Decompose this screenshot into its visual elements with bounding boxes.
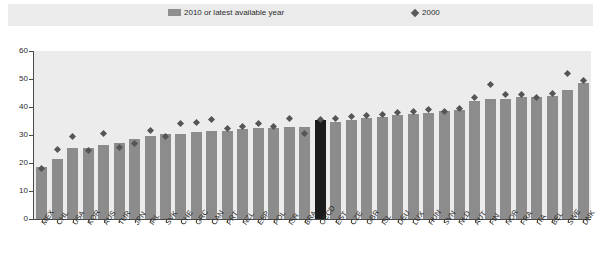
x-axis-label-nzl: NZL	[241, 210, 256, 226]
y-axis-tick-mark	[29, 163, 34, 164]
x-axis-tick-mark	[88, 220, 89, 223]
x-axis-tick-mark	[320, 220, 321, 223]
x-axis-tick-mark	[583, 220, 584, 223]
x-axis-tick-mark	[42, 220, 43, 223]
x-axis-tick-mark	[258, 220, 259, 223]
x-axis-label-jpn: JPN	[133, 210, 148, 226]
x-axis-tick-mark	[398, 220, 399, 223]
x-axis-tick-mark	[196, 220, 197, 223]
x-axis-tick-mark	[367, 220, 368, 223]
x-axis-tick-mark	[57, 220, 58, 223]
x-axis-label-nor: NOR	[504, 208, 520, 226]
y-axis-tick-mark	[29, 107, 34, 108]
x-axis-label-che: CHE	[179, 209, 195, 227]
x-axis-tick-mark	[351, 220, 352, 223]
x-axis-tick-mark	[181, 220, 182, 223]
x-axis-label-chl: CHL	[55, 210, 70, 227]
x-axis-tick-mark	[289, 220, 290, 223]
x-axis-label-fra: FRA	[519, 210, 534, 227]
y-axis-tick-mark	[29, 79, 34, 80]
x-axis-tick-mark	[475, 220, 476, 223]
x-axis-tick-mark	[429, 220, 430, 223]
x-axis-label-cze: CZE	[349, 210, 364, 227]
x-axis-tick-mark	[104, 220, 105, 223]
x-axis-tick-mark	[413, 220, 414, 223]
x-axis-tick-mark	[119, 220, 120, 223]
x-axis-tick-mark	[274, 220, 275, 223]
x-axis-tick-mark	[490, 220, 491, 223]
x-axis-label-dnk: DNK	[581, 209, 597, 227]
x-axis-label-aut: AUT	[473, 210, 488, 227]
x-axis-label-aus: AUS	[102, 209, 117, 226]
x-axis-tick-mark	[150, 220, 151, 223]
x-axis-label-kor: KOR	[86, 209, 102, 227]
x-axis-tick-mark	[521, 220, 522, 223]
x-axis-tick-mark	[506, 220, 507, 223]
x-axis-label-hun: HUN	[427, 209, 443, 227]
x-axis-label-gbr: GBR	[365, 209, 381, 227]
y-axis-tick-mark	[29, 219, 34, 220]
x-axis-tick-mark	[135, 220, 136, 223]
x-axis-tick-mark	[73, 220, 74, 223]
x-axis-tick-mark	[227, 220, 228, 223]
x-axis-tick-mark	[568, 220, 569, 223]
x-axis-label-lux: LUX	[411, 210, 426, 227]
x-axis-tick-mark	[212, 220, 213, 223]
x-axis-tick-mark	[166, 220, 167, 223]
x-axis-label-oecd: OECD	[318, 204, 337, 226]
x-axis-tick-mark	[444, 220, 445, 223]
y-axis-tick-mark	[29, 51, 34, 52]
x-axis-label-grc: GRC	[194, 208, 210, 226]
x-axis-label-svn: SVN	[442, 209, 457, 226]
x-axis-tick-mark	[305, 220, 306, 223]
x-axis-tick-mark	[243, 220, 244, 223]
x-axis-label-mex: MEX	[40, 209, 56, 227]
bar-chart: 2010 or latest available year 2000 01020…	[0, 0, 601, 260]
x-axis-label-svk: SVK	[164, 210, 179, 227]
x-axis-label-bra: BRA	[303, 209, 318, 226]
x-axis-label-tur: TUR	[117, 209, 132, 226]
x-axis-tick-mark	[537, 220, 538, 223]
x-axis-label-bel: BEL	[550, 210, 565, 226]
y-axis-tick-mark	[29, 135, 34, 136]
x-axis-labels: MEXCHLUSAKORAUSTURJPNIRLSVKCHEGRCCANPRTN…	[0, 0, 601, 260]
x-axis-label-swe: SWE	[566, 208, 582, 227]
x-axis-tick-mark	[459, 220, 460, 223]
x-axis-tick-mark	[552, 220, 553, 223]
x-axis-label-can: CAN	[210, 209, 226, 227]
x-axis-label-nld: NLD	[457, 210, 472, 227]
x-axis-label-est: EST	[334, 210, 349, 227]
x-axis-label-esp: ESP	[256, 210, 271, 227]
x-axis-tick-mark	[336, 220, 337, 223]
x-axis-label-deu: DEU	[396, 209, 412, 227]
x-axis-tick-mark	[382, 220, 383, 223]
x-axis-label-usa: USA	[71, 209, 86, 226]
x-axis-label-pol: POL	[272, 210, 287, 227]
x-axis-label-prt: PRT	[225, 210, 240, 227]
y-axis-tick-mark	[29, 191, 34, 192]
